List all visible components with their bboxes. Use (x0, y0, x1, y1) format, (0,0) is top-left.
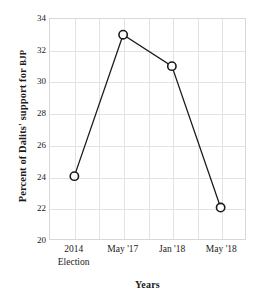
x-axis-title: Years (49, 279, 246, 290)
y-tick-label: 32 (26, 45, 46, 54)
series-polyline (74, 35, 220, 208)
y-tick-label: 28 (26, 109, 46, 118)
y-tick-label: 30 (26, 77, 46, 86)
data-series-line (50, 19, 245, 239)
y-tick-label: 22 (26, 204, 46, 213)
x-tick-label-line1: Jan '18 (159, 244, 185, 254)
x-axis-tick-labels: 2014ElectionMay '17Jan '18May '18 (49, 243, 246, 277)
data-point-marker[interactable] (70, 172, 78, 180)
y-axis-tick-labels: 2022242628303234 (26, 18, 46, 240)
plot-area (49, 18, 246, 240)
x-tick-label-line2: Election (38, 256, 110, 269)
y-tick-label: 26 (26, 140, 46, 149)
data-point-marker[interactable] (119, 31, 127, 39)
line-chart-figure: Percent of Dalits' support for BJP 20222… (0, 0, 254, 299)
data-point-marker[interactable] (216, 203, 224, 211)
y-tick-label: 24 (26, 172, 46, 181)
y-tick-label: 34 (26, 14, 46, 23)
x-tick-label: May '18 (185, 243, 254, 256)
x-tick-label-line1: 2014 (64, 244, 83, 254)
x-tick-label-line1: May '18 (206, 244, 237, 254)
x-tick-label-line1: May '17 (107, 244, 138, 254)
data-point-marker[interactable] (168, 62, 176, 70)
